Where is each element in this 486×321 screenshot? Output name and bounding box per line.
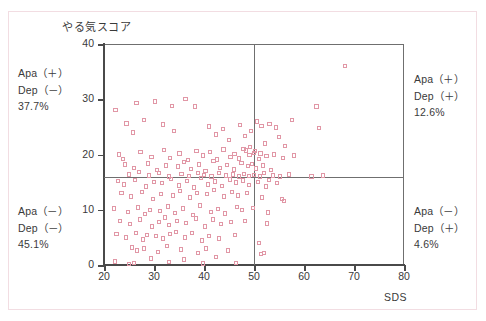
data-point xyxy=(212,188,216,192)
quadrant-bl-line2: Dep（－） xyxy=(18,220,68,237)
data-point xyxy=(113,259,117,263)
data-point xyxy=(157,171,161,175)
y-tick xyxy=(98,44,104,46)
data-point xyxy=(190,231,194,235)
data-point xyxy=(142,246,146,250)
data-point xyxy=(243,219,247,223)
data-point xyxy=(169,177,173,181)
data-point xyxy=(258,151,262,155)
quadrant-label-top-left: Apa（＋） Dep（－） 37.7% xyxy=(18,65,68,115)
data-point xyxy=(252,151,256,155)
data-point xyxy=(239,161,243,165)
data-point xyxy=(260,195,264,199)
quadrant-bl-percent: 45.1% xyxy=(18,236,68,253)
data-point xyxy=(185,179,189,183)
data-point xyxy=(233,233,237,237)
data-point xyxy=(274,125,278,129)
quadrant-tr-line1: Apa（＋） xyxy=(414,71,464,88)
x-tick-label: 70 xyxy=(339,270,369,282)
data-point xyxy=(249,129,253,133)
data-point xyxy=(161,122,165,126)
data-point xyxy=(227,138,231,142)
data-point xyxy=(205,192,209,196)
data-point xyxy=(248,145,252,149)
y-tick xyxy=(98,155,104,157)
data-point xyxy=(343,64,347,68)
y-tick xyxy=(98,99,104,101)
data-point xyxy=(225,163,229,167)
quadrant-br-percent: 4.6% xyxy=(414,236,464,253)
data-point xyxy=(211,159,215,163)
data-point xyxy=(228,177,232,181)
quadrant-label-top-right: Apa（＋） Dep（＋） 12.6% xyxy=(414,71,464,121)
data-point xyxy=(222,194,226,198)
data-point xyxy=(156,250,160,254)
data-point xyxy=(262,171,266,175)
data-point xyxy=(157,220,161,224)
data-point xyxy=(254,166,258,170)
data-point xyxy=(257,241,261,245)
data-point xyxy=(267,122,271,126)
data-point xyxy=(167,260,171,264)
data-point xyxy=(197,162,201,166)
data-point xyxy=(262,251,266,255)
data-point xyxy=(201,261,205,265)
data-point xyxy=(134,101,138,105)
data-point xyxy=(127,262,131,266)
data-point xyxy=(281,156,285,160)
x-tick-label: 50 xyxy=(239,270,269,282)
data-point xyxy=(247,183,251,187)
data-point xyxy=(134,231,138,235)
data-point xyxy=(167,223,171,227)
data-point xyxy=(226,248,230,252)
data-point xyxy=(264,154,268,158)
data-point xyxy=(152,180,156,184)
x-tick-label: 40 xyxy=(189,270,219,282)
data-point xyxy=(129,194,133,198)
data-point xyxy=(114,232,118,236)
data-point xyxy=(321,173,325,177)
data-point xyxy=(290,118,294,122)
data-point xyxy=(163,215,167,219)
x-tick-label: 20 xyxy=(89,270,119,282)
x-tick-label: 30 xyxy=(139,270,169,282)
data-point xyxy=(161,236,165,240)
data-point xyxy=(166,204,170,208)
data-point xyxy=(143,212,147,216)
data-point xyxy=(256,180,260,184)
data-point xyxy=(187,174,191,178)
data-point xyxy=(199,176,203,180)
data-point xyxy=(231,172,235,176)
data-point xyxy=(236,193,240,197)
data-point xyxy=(189,167,193,171)
data-point xyxy=(200,238,204,242)
data-point xyxy=(292,153,296,157)
data-point xyxy=(128,222,132,226)
data-point xyxy=(179,172,183,176)
data-point xyxy=(130,245,134,249)
data-point xyxy=(309,174,313,178)
data-point xyxy=(183,235,187,239)
data-point xyxy=(165,244,169,248)
data-point xyxy=(158,209,162,213)
data-point xyxy=(194,216,198,220)
quadrant-bl-line1: Apa（－） xyxy=(18,203,68,220)
x-tick-label: 80 xyxy=(389,270,419,282)
y-tick xyxy=(98,210,104,212)
data-point xyxy=(221,127,225,131)
data-point xyxy=(127,172,131,176)
data-point xyxy=(267,178,271,182)
y-tick-label: 10 xyxy=(68,203,94,215)
data-point xyxy=(159,192,163,196)
data-point xyxy=(122,182,126,186)
data-point xyxy=(136,205,140,209)
data-point xyxy=(230,190,234,194)
data-point xyxy=(168,156,172,160)
x-axis-title: SDS xyxy=(384,291,407,303)
data-point xyxy=(175,219,179,223)
data-point xyxy=(124,235,128,239)
data-point xyxy=(219,222,223,226)
data-point xyxy=(151,197,155,201)
y-tick-label: 20 xyxy=(68,148,94,160)
data-point xyxy=(275,181,279,185)
